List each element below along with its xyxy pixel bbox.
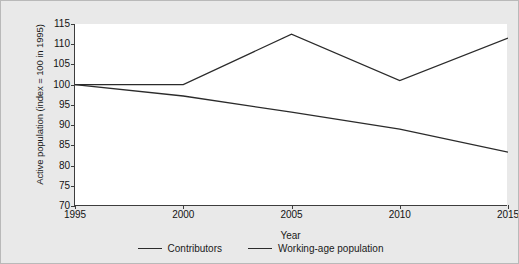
legend-item-working-age-population: Working-age population (248, 243, 383, 254)
plot-area: 7075808590951001051101151995200020052010… (74, 24, 507, 206)
chart-figure: Active population (index = 100 in 1995) … (0, 0, 519, 264)
x-axis-tick-mark (183, 205, 184, 209)
legend-label: Working-age population (278, 243, 383, 254)
x-axis-tick-mark (292, 205, 293, 209)
y-axis-tick-mark (71, 145, 75, 146)
y-axis-tick-mark (71, 186, 75, 187)
legend-line-icon (248, 248, 272, 249)
x-axis-tick-label: 2010 (389, 210, 411, 220)
series-line-0 (75, 34, 508, 85)
series-lines (75, 24, 508, 206)
x-axis-tick-mark (508, 205, 509, 209)
y-axis-title: Active population (index = 100 in 1995) (34, 5, 45, 205)
y-axis-tick-mark (71, 64, 75, 65)
y-axis-tick-mark (71, 105, 75, 106)
legend-line-icon (138, 248, 162, 249)
legend-label: Contributors (168, 243, 222, 254)
x-axis-title: Year (74, 230, 507, 241)
x-axis-tick-label: 1995 (64, 210, 86, 220)
legend-item-contributors: Contributors (138, 243, 222, 254)
x-axis-tick-mark (400, 205, 401, 209)
series-line-1 (75, 85, 508, 153)
y-axis-tick-mark (71, 85, 75, 86)
x-axis-tick-label: 2005 (280, 210, 302, 220)
x-axis-tick-mark (75, 205, 76, 209)
y-axis-tick-mark (71, 44, 75, 45)
y-axis-tick-mark (71, 166, 75, 167)
chart-legend: Contributors Working-age population (1, 243, 519, 254)
y-axis-tick-mark (71, 125, 75, 126)
x-axis-tick-label: 2015 (497, 210, 519, 220)
x-axis-tick-label: 2000 (172, 210, 194, 220)
y-axis-tick-mark (71, 24, 75, 25)
